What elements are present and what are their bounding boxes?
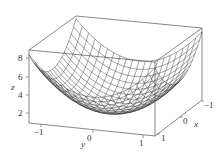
z-axis-label: z xyxy=(10,82,15,92)
x-tick-0: 0 xyxy=(183,116,188,126)
wireframe-line xyxy=(111,60,158,113)
wireframe-line xyxy=(74,27,200,70)
surface-plot: 8 6 4 2 z −1 0 1 y 1 0 −1 x xyxy=(0,0,221,158)
x-axis-label: x xyxy=(193,119,198,129)
x-tick-1: 1 xyxy=(161,133,166,143)
z-tick-6: 6 xyxy=(18,72,23,82)
y-tick-neg1: −1 xyxy=(34,127,44,137)
wireframe-line xyxy=(76,19,202,62)
wireframe-line xyxy=(71,34,197,77)
wireframe-line xyxy=(48,39,95,92)
paraboloid-wireframe xyxy=(29,19,202,115)
y-axis-label: y xyxy=(80,139,85,149)
wireframe-line xyxy=(29,55,155,98)
z-axis xyxy=(26,58,29,113)
z-tick-8: 8 xyxy=(18,53,23,63)
x-tick-neg1: −1 xyxy=(204,100,214,110)
y-tick-1: 1 xyxy=(139,138,144,148)
z-tick-2: 2 xyxy=(18,108,23,118)
z-tick-4: 4 xyxy=(18,90,23,100)
y-tick-0: 0 xyxy=(87,133,92,143)
